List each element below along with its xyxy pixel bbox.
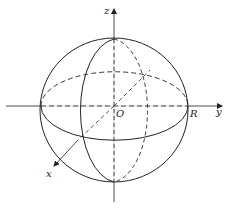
y-axis-label: y bbox=[215, 106, 222, 117]
radius-label: R bbox=[189, 108, 198, 119]
meridian-front bbox=[80, 39, 114, 182]
z-axis-label: z bbox=[103, 5, 110, 16]
x-axis-label: x bbox=[46, 168, 52, 179]
x-axis-back bbox=[114, 70, 150, 106]
x-axis-dashed bbox=[78, 106, 114, 140]
x-axis bbox=[54, 140, 78, 166]
origin-label: O bbox=[116, 108, 124, 119]
sphere-diagram: z y x O R bbox=[0, 0, 228, 210]
